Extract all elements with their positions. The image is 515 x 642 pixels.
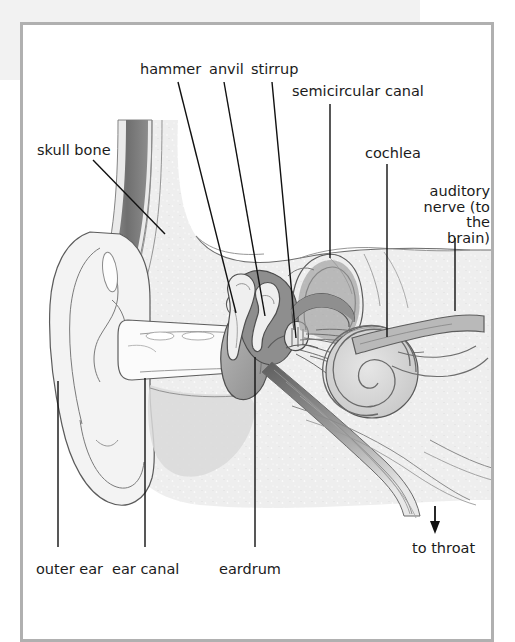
label-hammer: hammer	[140, 62, 201, 78]
label-auditory-nerve: auditory nerve (to the brain)	[420, 184, 490, 246]
label-semicircular-canal: semicircular canal	[292, 84, 424, 100]
label-eardrum: eardrum	[219, 562, 281, 578]
label-stirrup: stirrup	[251, 62, 298, 78]
label-outer-ear: outer ear	[36, 562, 103, 578]
label-cochlea: cochlea	[365, 146, 421, 162]
label-anvil: anvil	[209, 62, 244, 78]
label-skull-bone: skull bone	[37, 143, 111, 159]
label-to-throat: to throat	[412, 541, 475, 557]
label-ear-canal: ear canal	[112, 562, 179, 578]
to-throat-arrow	[430, 506, 440, 534]
